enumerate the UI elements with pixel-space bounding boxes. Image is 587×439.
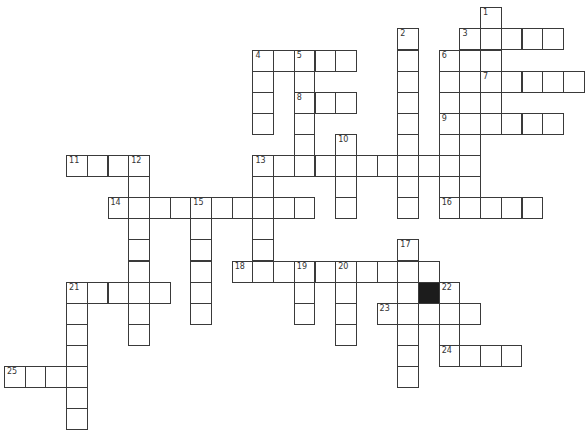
crossword-cell[interactable] [128,197,150,219]
crossword-cell[interactable] [377,155,399,177]
crossword-cell[interactable]: 25 [4,366,26,388]
crossword-cell[interactable] [294,155,316,177]
crossword-cell[interactable] [522,71,544,93]
crossword-cell[interactable] [522,197,544,219]
crossword-cell[interactable] [294,71,316,93]
crossword-cell[interactable]: 4 [252,50,274,72]
crossword-cell[interactable] [66,324,88,346]
crossword-cell[interactable]: 14 [108,197,130,219]
crossword-cell[interactable] [522,28,544,50]
crossword-cell[interactable] [170,197,192,219]
crossword-cell[interactable] [439,303,461,325]
crossword-cell[interactable] [252,239,274,261]
crossword-cell[interactable] [397,282,419,304]
crossword-cell[interactable] [397,71,419,93]
crossword-cell[interactable]: 17 [397,239,419,261]
crossword-cell[interactable] [397,366,419,388]
crossword-cell[interactable] [66,408,88,430]
crossword-cell[interactable] [45,366,67,388]
crossword-cell[interactable] [252,197,274,219]
crossword-cell[interactable]: 15 [190,197,212,219]
crossword-cell[interactable] [439,92,461,114]
crossword-cell[interactable] [522,113,544,135]
crossword-cell[interactable] [459,345,481,367]
crossword-cell[interactable] [128,282,150,304]
crossword-cell[interactable] [439,155,461,177]
crossword-cell[interactable] [397,303,419,325]
crossword-cell[interactable]: 3 [459,28,481,50]
crossword-cell[interactable] [232,197,254,219]
crossword-cell[interactable]: 6 [439,50,461,72]
crossword-cell[interactable] [397,345,419,367]
crossword-cell[interactable]: 12 [128,155,150,177]
crossword-cell[interactable] [356,261,378,283]
crossword-cell[interactable]: 5 [294,50,316,72]
crossword-cell[interactable]: 24 [439,345,461,367]
crossword-cell[interactable] [439,176,461,198]
crossword-cell[interactable] [190,282,212,304]
crossword-cell[interactable] [397,113,419,135]
crossword-cell[interactable] [190,261,212,283]
crossword-cell[interactable] [480,345,502,367]
crossword-cell[interactable] [459,71,481,93]
crossword-cell[interactable] [397,261,419,283]
crossword-cell[interactable] [273,197,295,219]
crossword-cell[interactable]: 9 [439,113,461,135]
crossword-cell[interactable] [190,239,212,261]
crossword-cell[interactable]: 18 [232,261,254,283]
crossword-cell[interactable] [66,366,88,388]
crossword-cell[interactable] [542,113,564,135]
crossword-cell[interactable] [335,92,357,114]
crossword-cell[interactable] [397,134,419,156]
crossword-cell[interactable] [459,303,481,325]
crossword-cell[interactable] [190,303,212,325]
crossword-cell[interactable] [273,261,295,283]
crossword-cell[interactable] [128,218,150,240]
crossword-cell[interactable] [149,197,171,219]
crossword-cell[interactable] [501,345,523,367]
crossword-cell[interactable]: 8 [294,92,316,114]
crossword-cell[interactable] [439,324,461,346]
crossword-cell[interactable] [459,176,481,198]
crossword-cell[interactable] [397,176,419,198]
crossword-cell[interactable] [418,261,440,283]
crossword-cell[interactable] [501,197,523,219]
crossword-cell[interactable] [315,92,337,114]
crossword-cell[interactable] [128,176,150,198]
crossword-cell[interactable] [459,197,481,219]
crossword-cell[interactable] [190,218,212,240]
crossword-cell[interactable] [294,113,316,135]
crossword-cell[interactable] [335,282,357,304]
crossword-cell[interactable] [252,113,274,135]
crossword-cell[interactable] [66,387,88,409]
crossword-cell[interactable] [149,282,171,304]
crossword-cell[interactable] [377,261,399,283]
crossword-cell[interactable] [418,155,440,177]
crossword-cell[interactable] [439,134,461,156]
crossword-cell[interactable] [459,155,481,177]
crossword-cell[interactable] [459,113,481,135]
crossword-cell[interactable] [397,324,419,346]
crossword-cell[interactable] [335,155,357,177]
crossword-cell[interactable]: 21 [66,282,88,304]
crossword-cell[interactable] [335,50,357,72]
crossword-cell[interactable] [294,282,316,304]
crossword-cell[interactable]: 1 [480,7,502,29]
crossword-cell[interactable]: 2 [397,28,419,50]
crossword-cell[interactable]: 16 [439,197,461,219]
crossword-cell[interactable] [459,50,481,72]
crossword-cell[interactable] [87,155,109,177]
crossword-cell[interactable] [335,197,357,219]
crossword-cell[interactable] [418,303,440,325]
crossword-cell[interactable]: 13 [252,155,274,177]
crossword-cell[interactable] [356,155,378,177]
crossword-cell[interactable]: 7 [480,71,502,93]
crossword-cell[interactable] [480,92,502,114]
crossword-cell[interactable]: 11 [66,155,88,177]
crossword-cell[interactable] [128,261,150,283]
crossword-cell[interactable]: 19 [294,261,316,283]
crossword-cell[interactable] [252,92,274,114]
crossword-cell[interactable] [501,28,523,50]
crossword-cell[interactable] [25,366,47,388]
crossword-cell[interactable] [480,28,502,50]
